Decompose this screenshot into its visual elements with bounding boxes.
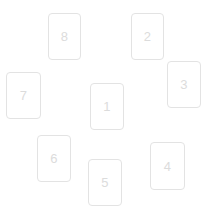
card-label: 6 [50, 152, 57, 165]
card-5[interactable]: 5 [88, 159, 122, 206]
card-2[interactable]: 2 [131, 13, 164, 60]
card-label: 8 [61, 30, 68, 43]
card-3[interactable]: 3 [167, 61, 201, 108]
card-label: 5 [101, 176, 108, 189]
card-label: 4 [164, 160, 171, 173]
card-1[interactable]: 1 [90, 83, 124, 130]
card-surface: 82371645 [0, 0, 213, 211]
card-7[interactable]: 7 [6, 72, 41, 119]
card-8[interactable]: 8 [48, 13, 81, 60]
card-6[interactable]: 6 [37, 135, 71, 182]
card-4[interactable]: 4 [150, 142, 185, 190]
card-label: 2 [144, 30, 151, 43]
card-label: 1 [103, 100, 110, 113]
card-label: 7 [20, 89, 27, 102]
card-label: 3 [180, 78, 187, 91]
